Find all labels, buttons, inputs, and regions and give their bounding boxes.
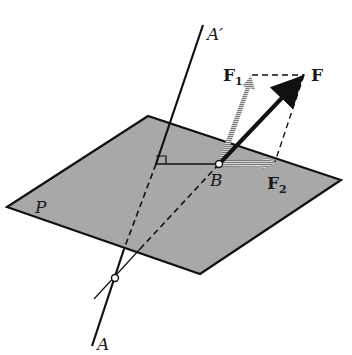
force-f-arrow	[221, 81, 298, 162]
label-a: A	[95, 334, 109, 354]
axis-intersection-point	[112, 275, 119, 282]
line-b-lower	[94, 249, 140, 299]
plane-p	[7, 116, 341, 274]
force-decomposition-diagram: P A′ A B F F1 F2	[0, 0, 352, 355]
label-plane-p: P	[34, 197, 47, 217]
label-f1: F1	[223, 65, 243, 88]
label-f: F	[311, 65, 323, 85]
label-a-prime: A′	[205, 24, 223, 44]
axis-line-lower	[92, 249, 124, 346]
point-b	[216, 161, 223, 168]
label-b: B	[209, 170, 223, 190]
